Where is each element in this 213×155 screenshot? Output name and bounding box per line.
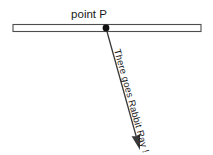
ray-label: There goes Rabbit Ray ! [112,48,152,155]
diagram-canvas: point P There goes Rabbit Ray ! [0,0,213,155]
point-p-dot [103,25,110,32]
ray-diagram: point P There goes Rabbit Ray ! [0,0,213,155]
point-p-label: point P [71,8,107,20]
